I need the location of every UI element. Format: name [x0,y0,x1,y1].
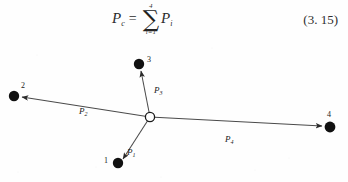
node-label-2: 2 [21,81,25,90]
equation-lhs-subscript: c [121,19,125,28]
sigma-icon: ∑ [143,9,159,29]
vector-arrows [22,71,322,159]
node-label-4: 4 [327,110,331,119]
equation-rhs-subscript: i [170,19,172,28]
vector-label-P4: P4 [225,134,234,145]
terminal-nodes [9,59,336,168]
equation-number: (3. 15) [303,12,338,28]
node-dot-2 [9,91,19,101]
figure-page: Pc = 4 ∑ i=1 Pi (3. 15) [0,0,348,182]
equation-lhs-symbol: P [112,10,121,26]
display-equation: Pc = 4 ∑ i=1 Pi [112,6,172,32]
vector-label-P3: P3 [154,85,163,96]
vector-arrow-P3 [141,71,150,117]
node-dot-3 [134,59,144,69]
vector-diagram: 1 2 3 4 P1 P2 P3 P4 [0,34,348,182]
equation-band: Pc = 4 ∑ i=1 Pi (3. 15) [0,4,348,34]
vector-label-P1: P1 [127,147,136,158]
vector-subscript-P2: 2 [85,111,88,117]
vector-label-P2: P2 [79,106,88,117]
vector-arrow-P4 [150,117,322,126]
origin-node [145,112,154,121]
vector-subscript-P3: 3 [160,90,163,96]
diagram-canvas [0,34,348,182]
node-label-3: 3 [147,55,151,64]
vector-subscript-P4: 4 [231,139,234,145]
equals-sign: = [129,11,137,27]
equation-left-side: Pc [112,10,125,28]
equation-rhs-symbol: P [161,10,170,26]
summation-operator: 4 ∑ i=1 [143,3,159,36]
vector-subscript-P1: 1 [133,152,136,158]
node-label-1: 1 [104,156,108,165]
node-dot-1 [113,158,123,168]
node-dot-4 [325,122,336,133]
equation-right-side: Pi [161,10,172,28]
